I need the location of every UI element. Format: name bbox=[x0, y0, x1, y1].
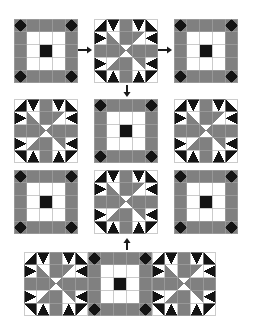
assembled-row-strip[interactable] bbox=[24, 252, 216, 316]
quilt-block-star-r3c2[interactable] bbox=[94, 170, 158, 234]
arrow-right-1-icon bbox=[78, 45, 92, 55]
quilt-block-star-r2c1[interactable] bbox=[14, 99, 78, 163]
strip-block-star-0 bbox=[24, 252, 88, 316]
arrow-right-2-icon bbox=[158, 45, 172, 55]
quilt-block-plain-r3c1[interactable] bbox=[14, 170, 78, 234]
strip-block-plain-1 bbox=[88, 252, 152, 316]
quilt-block-plain-r2c2[interactable] bbox=[94, 99, 158, 163]
diagram-canvas bbox=[0, 0, 253, 329]
arrow-up-1-icon bbox=[122, 238, 132, 250]
strip-block-star-2 bbox=[152, 252, 216, 316]
quilt-block-star-r2c3[interactable] bbox=[174, 99, 238, 163]
quilt-block-plain-r1c1[interactable] bbox=[14, 19, 78, 83]
arrow-down-1-icon bbox=[122, 85, 132, 97]
quilt-block-plain-r3c3[interactable] bbox=[174, 170, 238, 234]
quilt-block-plain-r1c3[interactable] bbox=[174, 19, 238, 83]
quilt-block-star-r1c2[interactable] bbox=[94, 19, 158, 83]
